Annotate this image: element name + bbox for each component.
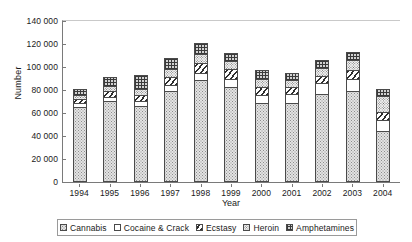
bar-segment-heroin[interactable] [256,80,268,88]
stacked-bar[interactable] [194,43,208,182]
legend-item-cocaine[interactable]: Cocaine & Crack [114,223,189,233]
bar-column[interactable] [134,21,148,182]
x-axis-tick: 1995 [103,184,117,198]
bar-segment-ecstasy[interactable] [316,77,328,85]
bar-column[interactable] [346,21,360,182]
bar-segment-cocaine[interactable] [347,80,359,92]
x-axis-tick-label: 2002 [312,188,331,198]
bar-column[interactable] [285,21,299,182]
y-axis-tick-label: 60 000 [31,108,63,118]
bar-segment-cocaine[interactable] [316,84,328,94]
bar-group [63,21,400,182]
legend-item-label: Cannabis [70,223,107,233]
y-axis-title: Number [13,43,23,123]
bar-segment-cocaine[interactable] [225,80,237,88]
stacked-bar[interactable] [285,73,299,182]
bar-segment-cannabis[interactable] [286,104,298,181]
bar-segment-cocaine[interactable] [377,121,389,132]
chart-legend: CannabisCocaine & CrackEcstasyHeroinAmph… [57,219,357,236]
x-axis-tick: 1999 [224,184,238,198]
x-axis-tick: 2004 [376,184,390,198]
stacked-bar[interactable] [134,75,148,182]
legend-item-cannabis[interactable]: Cannabis [60,223,107,233]
bar-segment-cannabis[interactable] [165,92,177,181]
x-axis-tick: 1997 [163,184,177,198]
stacked-bar[interactable] [164,58,178,182]
bar-segment-cannabis[interactable] [104,102,116,181]
legend-item-label: Cocaine & Crack [124,223,189,233]
bar-segment-heroin[interactable] [225,62,237,70]
y-axis-tick-label: 40 000 [31,131,63,141]
bar-segment-ecstasy[interactable] [347,71,359,80]
legend-item-label: Amphetamines [296,223,354,233]
bar-column[interactable] [194,21,208,182]
bar-column[interactable] [103,21,117,182]
y-axis-tick-label: 140 000 [27,16,63,26]
bar-segment-amphetamines[interactable] [256,71,268,80]
bar-column[interactable] [164,21,178,182]
bar-segment-amphetamines[interactable] [195,44,207,55]
bar-segment-amphetamines[interactable] [316,61,328,69]
stacked-bar[interactable] [103,77,117,182]
bar-segment-amphetamines[interactable] [286,74,298,82]
bar-segment-ecstasy[interactable] [225,70,237,79]
y-axis-tick-label: 100 000 [27,62,63,72]
bar-segment-cannabis[interactable] [347,92,359,181]
legend-swatch-amphetamines-icon [286,224,293,231]
bar-segment-heroin[interactable] [377,97,389,113]
bar-segment-amphetamines[interactable] [377,90,389,97]
bar-segment-amphetamines[interactable] [225,54,237,62]
bar-segment-cannabis[interactable] [377,132,389,181]
plot-area: 140 000120 000100 00080 00060 00040 0002… [62,20,400,183]
bar-segment-cannabis[interactable] [316,95,328,181]
x-axis-tick: 1998 [194,184,208,198]
bar-segment-cannabis[interactable] [256,104,268,181]
bar-segment-ecstasy[interactable] [256,88,268,96]
bar-segment-amphetamines[interactable] [104,78,116,87]
stacked-bar-chart: Number 140 000120 000100 00080 00060 000… [0,0,412,242]
bar-segment-cannabis[interactable] [225,88,237,181]
x-axis-tick-label: 1995 [100,188,119,198]
bar-column[interactable] [376,21,390,182]
bar-segment-cannabis[interactable] [74,108,86,181]
x-axis-tick-label: 1997 [161,188,180,198]
x-axis-tick: 2000 [254,184,268,198]
bar-segment-heroin[interactable] [165,70,177,78]
bar-column[interactable] [73,21,87,182]
legend-swatch-cannabis-icon [60,224,67,231]
y-axis-tick-label: 20 000 [31,154,63,164]
bar-segment-amphetamines[interactable] [347,53,359,61]
legend-swatch-cocaine-icon [114,224,121,231]
bar-segment-cocaine[interactable] [256,96,268,104]
bar-segment-heroin[interactable] [316,69,328,77]
stacked-bar[interactable] [376,89,390,182]
x-axis-tick-label: 2000 [252,188,271,198]
stacked-bar[interactable] [315,60,329,182]
bar-segment-cannabis[interactable] [195,81,207,181]
bar-segment-cannabis[interactable] [135,107,147,181]
legend-item-amphetamines[interactable]: Amphetamines [286,223,354,233]
bar-segment-amphetamines[interactable] [135,76,147,89]
bar-segment-cocaine[interactable] [195,74,207,81]
x-axis-tick-label: 2004 [373,188,392,198]
bar-segment-amphetamines[interactable] [165,59,177,70]
bar-column[interactable] [224,21,238,182]
bar-segment-ecstasy[interactable] [286,88,298,95]
stacked-bar[interactable] [73,89,87,182]
bar-segment-cocaine[interactable] [286,95,298,104]
legend-item-heroin[interactable]: Heroin [243,223,279,233]
bar-segment-ecstasy[interactable] [377,113,389,121]
bar-segment-ecstasy[interactable] [195,64,207,74]
x-axis-tick: 1996 [133,184,147,198]
stacked-bar[interactable] [255,70,269,182]
bar-segment-heroin[interactable] [347,61,359,71]
stacked-bar[interactable] [346,52,360,182]
bar-column[interactable] [255,21,269,182]
y-axis-tick-label: 120 000 [27,39,63,49]
legend-item-ecstasy[interactable]: Ecstasy [196,223,236,233]
bar-segment-ecstasy[interactable] [165,78,177,86]
bar-segment-heroin[interactable] [286,81,298,88]
stacked-bar[interactable] [224,53,238,182]
bar-column[interactable] [315,21,329,182]
bar-segment-heroin[interactable] [195,55,207,64]
